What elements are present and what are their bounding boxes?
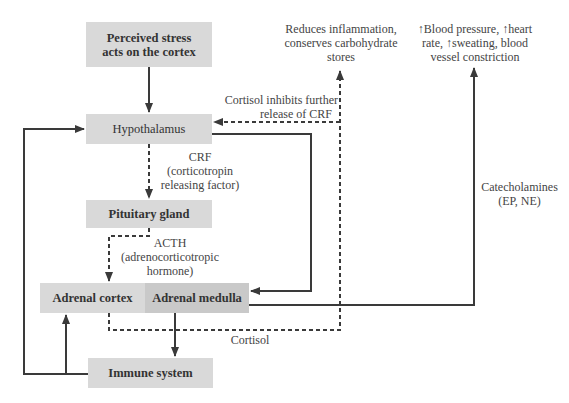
label-reduces-line3: stores: [282, 50, 400, 64]
node-immune-system: Immune system: [88, 358, 213, 388]
label-catecholamines-line2: (EP, NE): [477, 194, 562, 208]
label-crf-line2: (corticotropin: [155, 164, 245, 178]
label-reduces-line1: Reduces inflammation,: [282, 22, 400, 36]
label-cortisol-inhibits-line2: release of CRF: [212, 107, 338, 121]
label-crf: CRF (corticotropin releasing factor): [155, 150, 245, 192]
arrow-immune-to-hypothalamus: [24, 129, 84, 374]
arrow-immune-to-cortex: [66, 315, 88, 374]
node-hypothalamus: Hypothalamus: [86, 114, 212, 144]
node-adrenal-medulla: Adrenal medulla: [145, 283, 249, 313]
label-effects-line2: rate, ↑sweating, blood: [410, 36, 540, 50]
label-effects-line1: ↑Blood pressure, ↑heart: [410, 22, 540, 36]
label-cortisol: Cortisol: [215, 333, 285, 347]
label-catecholamines-line1: Catecholamines: [477, 180, 562, 194]
label-acth-line3: hormone): [120, 264, 220, 278]
label-acth: ACTH (adrenocorticotropic hormone): [120, 236, 220, 278]
node-adrenal-cortex: Adrenal cortex: [40, 283, 145, 313]
label-crf-line3: releasing factor): [155, 178, 245, 192]
label-reduces-inflammation: Reduces inflammation, conserves carbohyd…: [282, 22, 400, 64]
label-acth-line2: (adrenocorticotropic: [120, 250, 220, 264]
label-catecholamines: Catecholamines (EP, NE): [477, 180, 562, 208]
label-cortisol-inhibits: Cortisol inhibits further release of CRF: [212, 93, 338, 121]
label-crf-line1: CRF: [155, 150, 245, 164]
label-acth-line1: ACTH: [120, 236, 220, 250]
node-perceived-stress-line2: acts on the cortex: [102, 45, 195, 59]
node-perceived-stress: Perceived stress acts on the cortex: [86, 22, 212, 67]
label-effects-line3: vessel constriction: [410, 50, 540, 64]
label-reduces-line2: conserves carbohydrate: [282, 36, 400, 50]
label-physiological-effects: ↑Blood pressure, ↑heart rate, ↑sweating,…: [410, 22, 540, 64]
node-perceived-stress-line1: Perceived stress: [107, 31, 192, 45]
label-cortisol-inhibits-line1: Cortisol inhibits further: [212, 93, 338, 107]
node-pituitary-gland: Pituitary gland: [86, 200, 212, 228]
